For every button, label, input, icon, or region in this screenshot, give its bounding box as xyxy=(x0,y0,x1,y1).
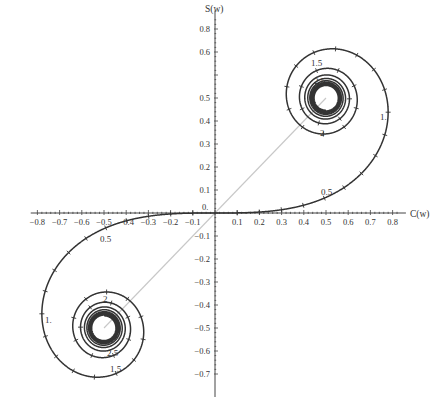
y-tick-label: 0.4 xyxy=(199,116,210,126)
curve-tick xyxy=(284,86,289,87)
parameter-label: 0.5 xyxy=(100,234,112,244)
curve-tick xyxy=(71,317,76,318)
x-tick-label: 0.6 xyxy=(343,217,354,227)
x-tick-label: −0.1 xyxy=(185,217,200,227)
parameter-label: 1.5 xyxy=(311,58,323,68)
curve-tick xyxy=(303,203,304,208)
y-tick-label: −0.6 xyxy=(195,346,210,356)
x-tick-label: 0.1 xyxy=(232,217,243,227)
curve-tick xyxy=(111,301,112,306)
parameter-label: 1. xyxy=(380,112,387,122)
curve-tick xyxy=(354,108,359,109)
x-tick-label: 0.3 xyxy=(276,217,287,227)
y-tick-label: −0.5 xyxy=(195,323,210,333)
x-tick-label: −0.7 xyxy=(52,217,67,227)
y-tick-label: −0.7 xyxy=(195,369,210,379)
x-tick-label: −0.6 xyxy=(74,217,89,227)
y-tick-label: −0.2 xyxy=(195,254,210,264)
parameter-label: 1. xyxy=(45,315,52,325)
parameter-label: 0.5 xyxy=(321,187,333,197)
y-axis-ticks: 0.80.60.50.40.30.20.1−0.1−0.2−0.3−0.4−0.… xyxy=(195,20,218,379)
spiral-branch-positive xyxy=(215,49,388,213)
y-axis-title: S(w) xyxy=(205,4,223,15)
parameter-label: 2 xyxy=(320,128,325,138)
x-tick-label: −0.8 xyxy=(30,217,45,227)
x-tick-label: −0.5 xyxy=(96,217,111,227)
y-tick-label: 0.2 xyxy=(199,162,210,172)
spiral-branch-negative xyxy=(42,213,215,377)
y-tick-label: −0.1 xyxy=(195,231,210,241)
x-tick-label: 0.7 xyxy=(365,217,376,227)
y-tick-label: 0.8 xyxy=(199,24,210,34)
y-tick-label: 0.1 xyxy=(199,185,210,195)
x-tick-label: 0.4 xyxy=(298,217,309,227)
y-tick-label: −0.3 xyxy=(195,277,210,287)
x-axis-title: C(w) xyxy=(410,209,430,220)
x-tick-label: −0.3 xyxy=(141,217,156,227)
x-tick-label: 0.8 xyxy=(387,217,398,227)
x-tick-label: 0.2 xyxy=(254,217,265,227)
y-tick-label: 0.5 xyxy=(199,93,210,103)
x-tick-label: 0.5 xyxy=(321,217,332,227)
x-tick-label: −0.2 xyxy=(163,217,178,227)
y-tick-label: 0.6 xyxy=(199,47,210,57)
parameter-label: 2.5 xyxy=(107,348,119,358)
parameter-label: 2 xyxy=(103,294,108,304)
curve-tick xyxy=(141,339,146,340)
origin-label: 0. xyxy=(202,202,208,212)
cornu-spiral-chart: −0.8−0.7−0.6−0.5−0.4−0.3−0.2−0.10.10.20.… xyxy=(0,0,447,419)
curve-tick xyxy=(318,121,319,126)
parameter-label: 2.5 xyxy=(314,76,326,86)
parameter-label: 1.5 xyxy=(110,364,122,374)
y-tick-label: 0.3 xyxy=(199,139,210,149)
y-tick-label: −0.4 xyxy=(195,300,211,310)
